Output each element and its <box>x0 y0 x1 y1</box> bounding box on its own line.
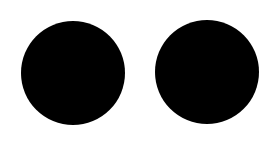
right-circle <box>155 20 259 124</box>
left-circle <box>21 21 125 125</box>
canvas <box>0 0 274 144</box>
